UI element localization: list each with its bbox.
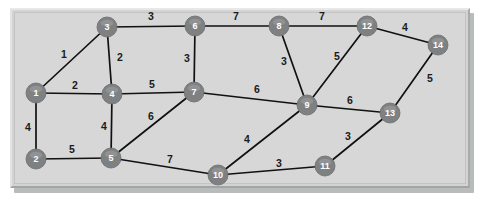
graph-canvas: 1242354567376375463345 12345678910111213… [0,0,484,205]
graph-edge [307,105,390,113]
edge-weight-label: 4 [25,121,31,133]
graph-node: 1 [26,83,46,103]
graph-edge [325,113,390,166]
edge-weight-label: 7 [233,10,239,22]
graph-edge [218,105,307,175]
graph-node: 8 [269,16,289,36]
edges-layer [36,26,438,175]
graph-node: 4 [102,84,122,104]
edge-weight-label: 7 [167,153,173,165]
graph-node: 6 [185,16,205,36]
edge-weight-label: 5 [69,143,75,155]
node-label: 12 [362,21,372,31]
edge-weight-label: 3 [276,157,282,169]
graph-edge [36,158,111,159]
edge-weight-label: 5 [149,78,155,90]
node-label: 6 [192,21,197,31]
graph-edge [36,93,112,94]
node-label: 13 [385,108,395,118]
graph-node: 3 [97,17,117,37]
node-label: 5 [108,153,113,163]
edge-weight-label: 5 [427,72,433,84]
graph-edge [218,166,325,175]
node-label: 1 [33,88,38,98]
edge-weight-label: 6 [254,83,260,95]
edge-weight-label: 3 [184,52,190,64]
graph-edge [111,158,218,175]
graph-node: 10 [208,165,228,185]
edge-weight-label: 2 [117,51,123,63]
edge-weight-label: 3 [345,130,351,142]
node-label: 11 [320,161,330,171]
graph-node: 11 [315,156,335,176]
node-label: 10 [213,170,223,180]
node-label: 7 [191,87,196,97]
node-label: 8 [276,21,281,31]
graph-node: 13 [380,103,400,123]
edge-weight-label: 3 [148,10,154,22]
edge-weight-label: 2 [72,79,78,91]
graph-edge [194,92,307,105]
edge-weight-label: 3 [281,55,287,67]
edge-weight-label: 7 [319,10,325,22]
node-label: 14 [433,40,443,50]
graph-node: 7 [184,82,204,102]
graph-edge [307,26,367,105]
graph-node: 2 [26,149,46,169]
node-label: 9 [304,100,309,110]
edge-weight-label: 1 [61,48,67,60]
graph-node: 5 [101,148,121,168]
node-label: 3 [104,22,109,32]
graph-screenshot: 1242354567376375463345 12345678910111213… [0,0,484,205]
graph-edge [112,92,194,94]
node-label: 4 [109,89,114,99]
edge-weight-label: 4 [402,21,408,33]
edge-weight-label: 6 [148,110,154,122]
graph-edge [111,92,194,158]
edge-weight-label: 6 [347,94,353,106]
edge-weight-label: 4 [101,120,107,132]
edge-weight-label: 5 [334,50,340,62]
graph-node: 9 [297,95,317,115]
edge-weight-label: 4 [244,133,250,145]
graph-edge [107,26,195,27]
graph-node: 12 [357,16,377,36]
node-label: 2 [33,154,38,164]
graph-node: 14 [428,35,448,55]
